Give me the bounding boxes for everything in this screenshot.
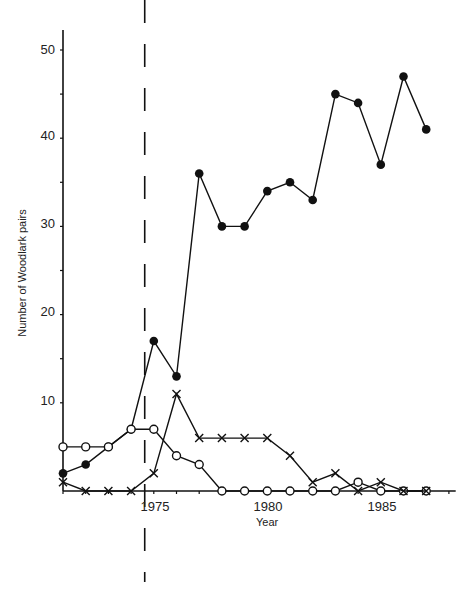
y-tick-label-50: 50	[41, 42, 55, 57]
open-circle-marker	[195, 461, 203, 469]
filled-circle-marker	[286, 178, 295, 187]
y-tick-label-20: 20	[41, 304, 55, 319]
y-tick-label-40: 40	[41, 128, 55, 143]
x-tick-label-1985: 1985	[368, 499, 397, 514]
series-filled-circles	[59, 72, 431, 478]
axes	[60, 30, 456, 494]
cross-marker	[286, 452, 294, 460]
cross-marker	[331, 469, 339, 477]
open-circle-marker	[331, 487, 339, 495]
series-line	[63, 76, 426, 473]
woodlark-chart: 1975 1980 1985 Year 10 20 30 40 50 Numbe…	[0, 0, 467, 594]
filled-circle-marker	[218, 222, 227, 231]
filled-circle-marker	[263, 187, 272, 196]
filled-circle-marker	[150, 337, 159, 346]
filled-circle-marker	[354, 99, 363, 108]
y-tick-label-10: 10	[41, 393, 55, 408]
open-circle-marker	[354, 478, 362, 486]
filled-circle-marker	[81, 460, 90, 469]
open-circle-marker	[173, 452, 181, 460]
data-series	[59, 72, 431, 495]
filled-circle-marker	[377, 160, 386, 169]
y-axis-title: Number of Woodlark pairs	[16, 209, 28, 337]
open-circle-marker	[59, 443, 67, 451]
open-circle-marker	[286, 487, 294, 495]
filled-circle-marker	[331, 90, 340, 99]
axis-labels: 1975 1980 1985 Year 10 20 30 40 50 Numbe…	[16, 42, 396, 528]
x-axis-title: Year	[256, 516, 279, 528]
filled-circle-marker	[59, 469, 68, 478]
y-tick-label-30: 30	[41, 216, 55, 231]
series-line	[63, 394, 426, 491]
x-tick-label-1975: 1975	[141, 499, 170, 514]
filled-circle-marker	[422, 125, 431, 134]
filled-circle-marker	[399, 72, 408, 81]
filled-circle-marker	[195, 169, 204, 178]
open-circle-marker	[309, 487, 317, 495]
open-circle-marker	[104, 443, 112, 451]
open-circle-marker	[127, 425, 135, 433]
open-circle-marker	[263, 487, 271, 495]
cross-marker	[173, 390, 181, 398]
open-circle-marker	[82, 443, 90, 451]
open-circle-marker	[241, 487, 249, 495]
cross-marker	[150, 469, 158, 477]
filled-circle-marker	[172, 372, 181, 381]
open-circle-marker	[150, 425, 158, 433]
open-circle-marker	[377, 487, 385, 495]
cross-marker	[309, 478, 317, 486]
filled-circle-marker	[240, 222, 249, 231]
open-circle-marker	[218, 487, 226, 495]
filled-circle-marker	[308, 196, 317, 205]
x-tick-label-1980: 1980	[254, 499, 283, 514]
cross-marker	[377, 478, 385, 486]
